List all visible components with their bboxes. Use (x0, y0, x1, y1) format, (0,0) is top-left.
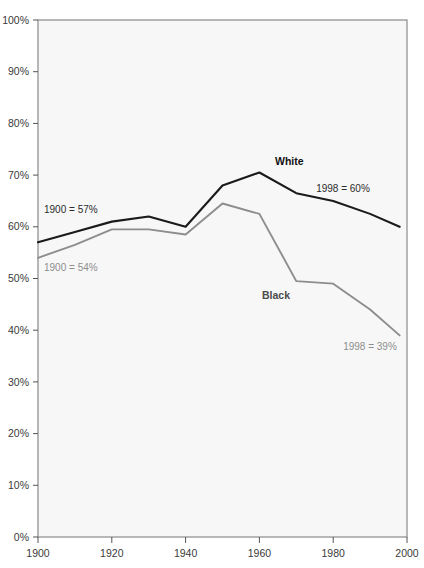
y-tick-label: 90% (8, 65, 29, 77)
x-tick-label: 1900 (26, 547, 50, 559)
y-tick-label: 20% (8, 427, 29, 439)
series-label-white: White (275, 155, 304, 167)
series-label-black: Black (262, 289, 290, 301)
annotation-white-start: 1900 = 57% (44, 204, 98, 215)
y-tick-label: 100% (2, 14, 29, 26)
annotation-black-end: 1998 = 39% (343, 341, 397, 352)
x-tick-label: 2000 (395, 547, 419, 559)
y-tick-label: 50% (8, 272, 29, 284)
y-tick-label: 0% (14, 531, 29, 543)
x-axis: 190019201940196019802000 (26, 537, 419, 559)
annotation-black-start: 1900 = 54% (44, 262, 98, 273)
plot-area-background (38, 20, 407, 537)
x-tick-label: 1940 (174, 547, 198, 559)
x-tick-label: 1960 (248, 547, 272, 559)
x-tick-label: 1920 (100, 547, 124, 559)
y-tick-label: 60% (8, 220, 29, 232)
y-tick-label: 70% (8, 169, 29, 181)
y-tick-label: 80% (8, 117, 29, 129)
y-axis: 0%10%20%30%40%50%60%70%80%90%100% (2, 14, 38, 543)
annotation-white-end: 1998 = 60% (316, 183, 370, 194)
y-tick-label: 40% (8, 324, 29, 336)
y-tick-label: 10% (8, 479, 29, 491)
y-tick-label: 30% (8, 376, 29, 388)
chart-container: 0%10%20%30%40%50%60%70%80%90%100% 190019… (0, 0, 424, 568)
line-chart: 0%10%20%30%40%50%60%70%80%90%100% 190019… (0, 0, 424, 568)
x-tick-label: 1980 (322, 547, 346, 559)
